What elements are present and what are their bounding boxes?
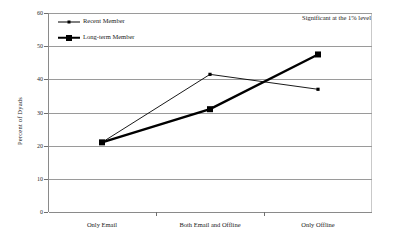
y-tick-mark-20 [44, 146, 48, 147]
y-tick-mark-40 [44, 79, 48, 80]
legend-label-long-term-member: Long-term Member [83, 34, 134, 41]
y-tick-mark-0 [44, 212, 48, 213]
chart-legend: Recent Member Long-term Member [58, 17, 134, 42]
data-point-marker [207, 106, 213, 112]
data-point-marker [316, 88, 319, 91]
data-point-marker [99, 139, 105, 145]
series-line-1 [102, 54, 318, 142]
legend-marker-thick-square-icon [58, 33, 80, 42]
legend-label-recent-member: Recent Member [83, 18, 125, 25]
y-tick-mark-60 [44, 13, 48, 14]
y-tick-mark-10 [44, 179, 48, 180]
legend-item-recent-member: Recent Member [58, 17, 134, 26]
y-tick-mark-50 [44, 46, 48, 47]
y-tick-mark-30 [44, 113, 48, 114]
significance-annotation: Significant at the 1% level [302, 15, 371, 22]
legend-item-long-term-member: Long-term Member [58, 33, 134, 42]
data-point-marker [208, 73, 211, 76]
data-point-marker [315, 51, 321, 57]
legend-marker-thin-square-icon [58, 17, 80, 26]
line-chart: Percent of Dyads 0102030405060 Only Emai… [0, 0, 397, 241]
